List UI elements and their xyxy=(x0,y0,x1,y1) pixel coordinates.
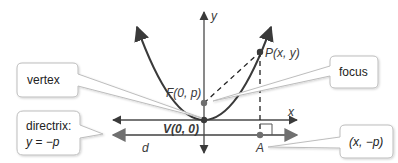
callout-directrix-line2: y = −p xyxy=(25,135,60,149)
x-axis-label: x xyxy=(287,105,295,119)
a-point xyxy=(257,132,263,138)
distance-segments xyxy=(204,52,260,135)
parabola-diagram: y x F(0, p) V(0, 0) P(x, y) A d vertex d… xyxy=(0,0,398,163)
focus-label: F(0, p) xyxy=(166,86,201,100)
y-axis-label: y xyxy=(210,9,218,23)
callout-directrix-line1: directrix: xyxy=(26,119,71,133)
p-point xyxy=(257,49,263,55)
a-label: A xyxy=(255,141,264,155)
distance-d-label: d xyxy=(142,141,149,155)
p-label: P(x, y) xyxy=(265,46,300,60)
vertex-label: V(0, 0) xyxy=(163,122,199,136)
callout-vertex-text: vertex xyxy=(27,73,60,87)
focus-point xyxy=(201,100,207,106)
callout-a-coordinates-text: (x, −p) xyxy=(349,135,383,149)
callout-focus-text: focus xyxy=(339,65,368,79)
